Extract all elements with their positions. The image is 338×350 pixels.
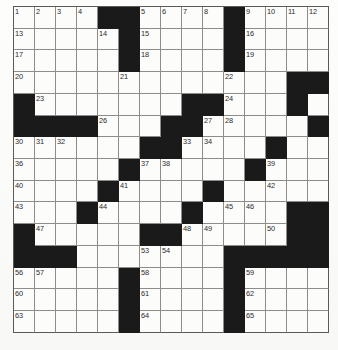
- letter-cell[interactable]: 19: [245, 50, 266, 72]
- letter-cell[interactable]: [56, 224, 77, 246]
- letter-cell[interactable]: 34: [203, 137, 224, 159]
- letter-cell[interactable]: [77, 72, 98, 94]
- letter-cell[interactable]: 7: [182, 7, 203, 29]
- letter-cell[interactable]: [266, 94, 287, 116]
- letter-cell[interactable]: [35, 159, 56, 181]
- letter-cell[interactable]: [266, 268, 287, 290]
- letter-cell[interactable]: [77, 137, 98, 159]
- letter-cell[interactable]: [287, 268, 308, 290]
- letter-cell[interactable]: [119, 94, 140, 116]
- letter-cell[interactable]: [161, 50, 182, 72]
- letter-cell[interactable]: [245, 181, 266, 203]
- letter-cell[interactable]: [140, 181, 161, 203]
- letter-cell[interactable]: 46: [245, 202, 266, 224]
- letter-cell[interactable]: [98, 94, 119, 116]
- letter-cell[interactable]: [98, 159, 119, 181]
- letter-cell[interactable]: [161, 311, 182, 333]
- letter-cell[interactable]: [308, 29, 329, 51]
- letter-cell[interactable]: [98, 246, 119, 268]
- letter-cell[interactable]: [56, 159, 77, 181]
- letter-cell[interactable]: 3: [56, 7, 77, 29]
- letter-cell[interactable]: 23: [35, 94, 56, 116]
- letter-cell[interactable]: [56, 50, 77, 72]
- letter-cell[interactable]: [35, 289, 56, 311]
- letter-cell[interactable]: [140, 202, 161, 224]
- letter-cell[interactable]: 30: [14, 137, 35, 159]
- letter-cell[interactable]: [56, 289, 77, 311]
- letter-cell[interactable]: [98, 289, 119, 311]
- letter-cell[interactable]: [56, 268, 77, 290]
- letter-cell[interactable]: 49: [203, 224, 224, 246]
- letter-cell[interactable]: [119, 246, 140, 268]
- letter-cell[interactable]: [140, 72, 161, 94]
- letter-cell[interactable]: 8: [203, 7, 224, 29]
- letter-cell[interactable]: [224, 159, 245, 181]
- letter-cell[interactable]: [182, 50, 203, 72]
- letter-cell[interactable]: [245, 72, 266, 94]
- letter-cell[interactable]: [182, 29, 203, 51]
- letter-cell[interactable]: [182, 268, 203, 290]
- letter-cell[interactable]: 47: [35, 224, 56, 246]
- letter-cell[interactable]: 16: [245, 29, 266, 51]
- letter-cell[interactable]: [308, 50, 329, 72]
- letter-cell[interactable]: 61: [140, 289, 161, 311]
- letter-cell[interactable]: [119, 224, 140, 246]
- letter-cell[interactable]: [35, 72, 56, 94]
- letter-cell[interactable]: [98, 72, 119, 94]
- letter-cell[interactable]: 60: [14, 289, 35, 311]
- letter-cell[interactable]: 28: [224, 116, 245, 138]
- letter-cell[interactable]: 38: [161, 159, 182, 181]
- letter-cell[interactable]: [56, 29, 77, 51]
- letter-cell[interactable]: [287, 311, 308, 333]
- letter-cell[interactable]: 41: [119, 181, 140, 203]
- letter-cell[interactable]: 14: [98, 29, 119, 51]
- letter-cell[interactable]: [266, 29, 287, 51]
- letter-cell[interactable]: [245, 224, 266, 246]
- letter-cell[interactable]: [266, 311, 287, 333]
- letter-cell[interactable]: [140, 94, 161, 116]
- letter-cell[interactable]: 31: [35, 137, 56, 159]
- letter-cell[interactable]: 57: [35, 268, 56, 290]
- letter-cell[interactable]: [308, 181, 329, 203]
- letter-cell[interactable]: [308, 289, 329, 311]
- letter-cell[interactable]: [56, 311, 77, 333]
- letter-cell[interactable]: [287, 116, 308, 138]
- letter-cell[interactable]: [35, 181, 56, 203]
- letter-cell[interactable]: 62: [245, 289, 266, 311]
- letter-cell[interactable]: 12: [308, 7, 329, 29]
- letter-cell[interactable]: 27: [203, 116, 224, 138]
- letter-cell[interactable]: 42: [266, 181, 287, 203]
- letter-cell[interactable]: [287, 50, 308, 72]
- letter-cell[interactable]: 58: [140, 268, 161, 290]
- letter-cell[interactable]: [203, 289, 224, 311]
- letter-cell[interactable]: [77, 224, 98, 246]
- letter-cell[interactable]: 22: [224, 72, 245, 94]
- letter-cell[interactable]: [266, 116, 287, 138]
- letter-cell[interactable]: [182, 246, 203, 268]
- letter-cell[interactable]: [77, 311, 98, 333]
- crossword-grid[interactable]: 1234567891011121314151617181920212223242…: [13, 6, 329, 333]
- letter-cell[interactable]: 32: [56, 137, 77, 159]
- letter-cell[interactable]: 37: [140, 159, 161, 181]
- letter-cell[interactable]: 21: [119, 72, 140, 94]
- letter-cell[interactable]: [77, 29, 98, 51]
- letter-cell[interactable]: [224, 181, 245, 203]
- letter-cell[interactable]: 5: [140, 7, 161, 29]
- letter-cell[interactable]: 50: [266, 224, 287, 246]
- letter-cell[interactable]: [308, 94, 329, 116]
- letter-cell[interactable]: [224, 137, 245, 159]
- letter-cell[interactable]: 45: [224, 202, 245, 224]
- letter-cell[interactable]: [77, 94, 98, 116]
- letter-cell[interactable]: [287, 289, 308, 311]
- letter-cell[interactable]: [77, 50, 98, 72]
- letter-cell[interactable]: 63: [14, 311, 35, 333]
- letter-cell[interactable]: 64: [140, 311, 161, 333]
- letter-cell[interactable]: [203, 246, 224, 268]
- letter-cell[interactable]: [182, 289, 203, 311]
- letter-cell[interactable]: 17: [14, 50, 35, 72]
- letter-cell[interactable]: [308, 268, 329, 290]
- letter-cell[interactable]: [182, 181, 203, 203]
- letter-cell[interactable]: [98, 137, 119, 159]
- letter-cell[interactable]: 54: [161, 246, 182, 268]
- letter-cell[interactable]: [266, 50, 287, 72]
